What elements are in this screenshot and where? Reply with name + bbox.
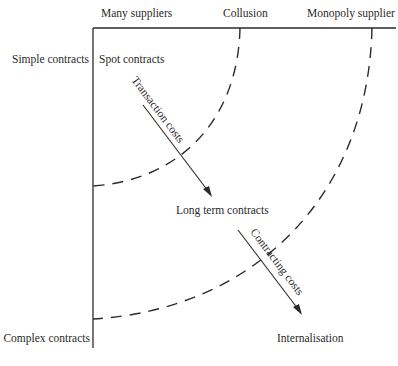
- outer-boundary-arc: [93, 28, 372, 319]
- contracting-costs-label: Contracting costs: [248, 226, 307, 298]
- transaction-costs-label: Transaction costs: [129, 74, 187, 145]
- inner-boundary-arc: [93, 28, 240, 186]
- label-collusion: Collusion: [223, 7, 268, 19]
- arrowhead-icon: [203, 186, 212, 197]
- region-spot-contracts: Spot contracts: [99, 53, 165, 66]
- region-long-term-contracts: Long term contracts: [176, 204, 269, 217]
- arrowhead-icon: [293, 304, 302, 315]
- label-many-suppliers: Many suppliers: [101, 7, 173, 20]
- label-complex-contracts: Complex contracts: [3, 332, 90, 345]
- transaction-costs-arrow: [143, 105, 212, 197]
- market-structure-diagram: Many suppliers Collusion Monopoly suppli…: [0, 0, 398, 366]
- label-monopoly-supplier: Monopoly supplier: [307, 7, 395, 20]
- region-internalisation: Internalisation: [277, 332, 344, 344]
- label-simple-contracts: Simple contracts: [12, 53, 89, 66]
